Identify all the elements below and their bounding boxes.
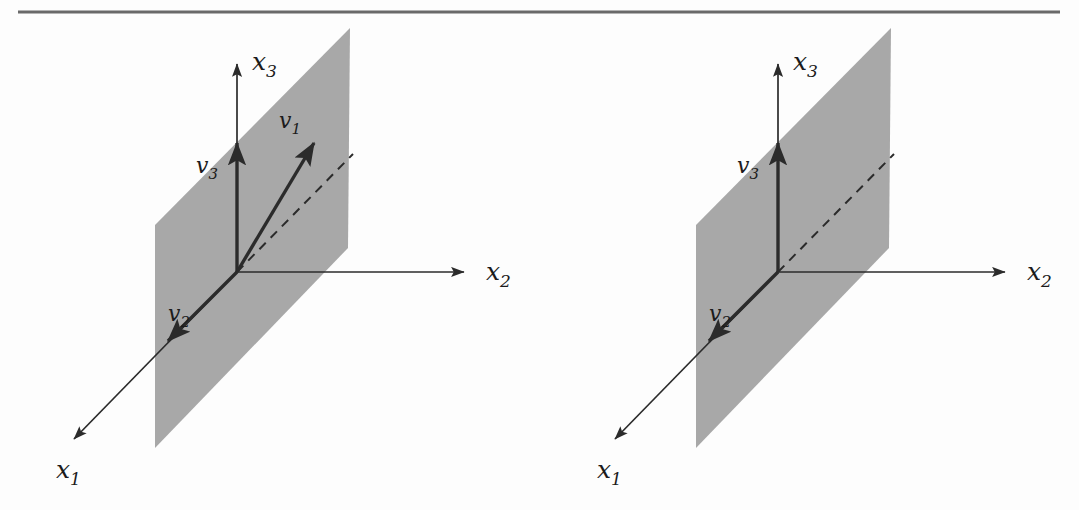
axis-label-x1: x1	[597, 455, 622, 489]
axis-label-x2: x2	[1027, 257, 1052, 291]
axis-label-x1: x1	[56, 455, 81, 489]
left-diagram: x3 x2 x1 v1 v2 v3	[56, 28, 511, 489]
vector-space-figure: x3 x2 x1 v1 v2 v3	[0, 0, 1079, 510]
axis-label-x3: x3	[252, 47, 277, 81]
figure-canvas: x3 x2 x1 v1 v2 v3	[0, 0, 1079, 510]
shaded-plane	[696, 28, 891, 448]
axis-label-x3: x3	[793, 47, 818, 81]
right-diagram: x3 x2 x1 v2 v3	[597, 28, 1052, 489]
shaded-plane	[155, 28, 350, 448]
axis-label-x2: x2	[486, 257, 511, 291]
